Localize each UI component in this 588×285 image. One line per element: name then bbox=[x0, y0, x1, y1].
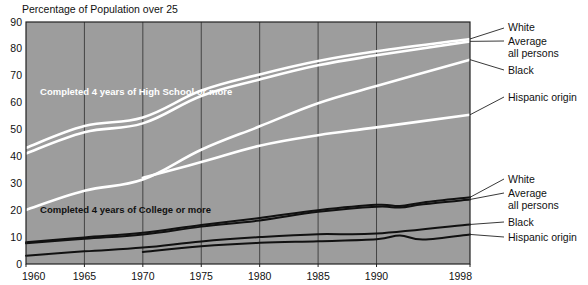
x-tick-label-1960: 1960 bbox=[22, 270, 46, 282]
x-tick-label-1965: 1965 bbox=[73, 270, 97, 282]
legend-bottom-average-sub: all persons bbox=[508, 199, 559, 211]
y-tick-label-20: 20 bbox=[10, 204, 22, 216]
legend-top-average: Average bbox=[508, 35, 547, 47]
legend-top-white: White bbox=[508, 21, 535, 33]
legend-bottom-white: White bbox=[508, 173, 535, 185]
legend-top-hispanic: Hispanic origin bbox=[508, 91, 577, 103]
chart-figure: Percentage of Population over 25 0102030… bbox=[0, 0, 588, 285]
x-tick-label-1970: 1970 bbox=[131, 270, 155, 282]
x-tick-label-1998: 1998 bbox=[449, 270, 473, 282]
y-tick-label-40: 40 bbox=[10, 150, 22, 162]
y-tick-label-80: 80 bbox=[10, 42, 22, 54]
plot-area-background bbox=[26, 22, 470, 264]
y-tick-label-70: 70 bbox=[10, 69, 22, 81]
x-tick-label-1980: 1980 bbox=[248, 270, 272, 282]
legend-bottom-average: Average bbox=[508, 187, 547, 199]
y-tick-label-30: 30 bbox=[10, 177, 22, 189]
y-tick-label-90: 90 bbox=[10, 16, 22, 28]
y-tick-label-60: 60 bbox=[10, 96, 22, 108]
legend-top-average-sub: all persons bbox=[508, 47, 559, 59]
x-tick-label-1975: 1975 bbox=[190, 270, 214, 282]
chart-title: Percentage of Population over 25 bbox=[22, 3, 178, 15]
legend-bottom-black: Black bbox=[508, 216, 534, 228]
x-tick-label-1990: 1990 bbox=[365, 270, 389, 282]
y-tick-label-0: 0 bbox=[16, 258, 22, 270]
annotation-college: Completed 4 years of College or more bbox=[40, 204, 211, 215]
legend-bottom-hispanic: Hispanic origin bbox=[508, 231, 577, 243]
line-chart-canvas: Percentage of Population over 25 0102030… bbox=[0, 0, 588, 285]
x-tick-label-1985: 1985 bbox=[306, 270, 330, 282]
y-tick-label-50: 50 bbox=[10, 123, 22, 135]
legend-top-black: Black bbox=[508, 64, 534, 76]
annotation-high-school: Completed 4 years of High School or more bbox=[40, 86, 232, 97]
y-tick-label-10: 10 bbox=[10, 231, 22, 243]
